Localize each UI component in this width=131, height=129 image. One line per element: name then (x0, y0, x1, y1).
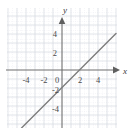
y-axis-arrow-icon (59, 17, 66, 24)
x-axis-label: x (122, 66, 127, 76)
x-tick-label-2: 2 (78, 75, 82, 85)
x-tick-label-neg2: -2 (40, 75, 47, 85)
y-tick-label-neg2: -2 (52, 85, 59, 95)
y-tick-label-2: 2 (53, 48, 57, 58)
x-tick-label-neg4: -4 (22, 75, 30, 85)
x-tick-label-0: 0 (55, 75, 59, 85)
graph-canvas: y x -4 -2 0 2 4 4 2 -2 -4 (0, 0, 131, 128)
plotted-line (22, 34, 117, 129)
y-axis-label: y (62, 5, 67, 15)
y-tick-label-neg4: -4 (52, 104, 60, 114)
x-axis-arrow-icon (113, 67, 120, 74)
coordinate-plane-figure: y x -4 -2 0 2 4 4 2 -2 -4 (0, 0, 131, 128)
